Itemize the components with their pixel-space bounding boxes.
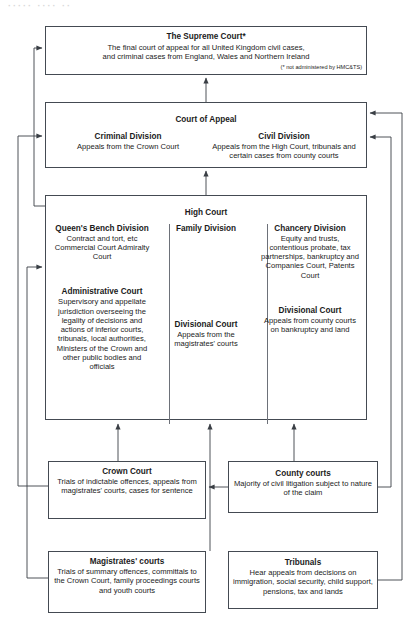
chancery-division-column[interactable]: Chancery Division Equity and trusts, con… xyxy=(258,224,362,424)
court-of-appeal-box[interactable]: Court of Appeal Criminal Division Appeal… xyxy=(45,102,367,168)
court-structure-diagram: ····· ···· ·· xyxy=(0,0,410,640)
supreme-court-line-1: The final court of appeal for all United… xyxy=(50,43,362,52)
divisional-court-chancery-cell[interactable]: Divisional Court Appeals from county cou… xyxy=(261,306,359,335)
divisional-court-chancery-body: Appeals from county courts on bankruptcy… xyxy=(261,316,359,335)
tribunals-box[interactable]: Tribunals Hear appeals from decisions on… xyxy=(228,551,378,609)
family-division-spacer xyxy=(157,236,255,320)
crown-court-box[interactable]: Crown Court Trials of indictable offence… xyxy=(48,461,206,519)
family-division-column[interactable]: Family Division Divisional Court Appeals… xyxy=(154,224,258,424)
administrative-court-cell[interactable]: Administrative Court Supervisory and app… xyxy=(53,287,151,371)
supreme-court-title: The Supreme Court* xyxy=(50,32,362,42)
crown-court-body: Trials of indictable offences, appeals f… xyxy=(53,477,201,496)
administrative-court-title: Administrative Court xyxy=(53,287,151,297)
high-court-title: High Court xyxy=(185,208,227,217)
administrative-court-body: Supervisory and appellate jurisdiction o… xyxy=(53,297,151,371)
county-courts-box[interactable]: County courts Majority of civil litigati… xyxy=(228,461,378,513)
high-court-box[interactable]: High Court Queen's Bench Division Contra… xyxy=(45,195,367,420)
chancery-division-spacer xyxy=(261,282,359,306)
chancery-division-body: Equity and trusts, contentious probate, … xyxy=(261,234,359,280)
county-courts-body: Majority of civil litigation subject to … xyxy=(233,479,373,498)
chancery-division-title: Chancery Division xyxy=(261,224,359,234)
queens-bench-division-title: Queen's Bench Division xyxy=(53,224,151,234)
arrow-county-to-coa xyxy=(370,137,391,487)
tribunals-title: Tribunals xyxy=(233,558,373,568)
family-division-title: Family Division xyxy=(157,224,255,234)
chancery-division-cell[interactable]: Chancery Division Equity and trusts, con… xyxy=(261,224,359,280)
queens-bench-division-cell[interactable]: Queen's Bench Division Contract and tort… xyxy=(53,224,151,262)
supreme-court-footnote: (* not administered by HMC&TS) xyxy=(50,64,362,71)
arrow-crown-to-coa xyxy=(18,136,48,486)
divisional-court-family-body: Appeals from the magistrates' courts xyxy=(157,330,255,349)
crown-court-title: Crown Court xyxy=(53,467,201,477)
criminal-division-title: Criminal Division xyxy=(54,132,202,142)
arrow-highcourt-to-supreme xyxy=(34,48,45,206)
criminal-division-body: Appeals from the Crown Court xyxy=(54,142,202,151)
magistrates-courts-title: Magistrates' courts xyxy=(53,557,201,567)
county-courts-title: County courts xyxy=(233,469,373,479)
tribunals-body: Hear appeals from decisions on immigrati… xyxy=(233,568,373,596)
divisional-court-family-cell[interactable]: Divisional Court Appeals from the magist… xyxy=(157,320,255,349)
magistrates-courts-body: Trials of summary offences, committals t… xyxy=(53,567,201,595)
queens-bench-spacer xyxy=(53,263,151,287)
queens-bench-column[interactable]: Queen's Bench Division Contract and tort… xyxy=(50,224,154,424)
divisional-court-chancery-title: Divisional Court xyxy=(261,306,359,316)
divisional-court-family-title: Divisional Court xyxy=(157,320,255,330)
queens-bench-division-body: Contract and tort, etc Commercial Court … xyxy=(53,234,151,262)
supreme-court-line-2: and criminal cases from England, Wales a… xyxy=(50,52,362,61)
criminal-division-cell[interactable]: Criminal Division Appeals from the Crown… xyxy=(50,132,206,161)
supreme-court-box[interactable]: The Supreme Court* The final court of ap… xyxy=(45,26,367,75)
civil-division-title: Civil Division xyxy=(210,132,358,142)
court-of-appeal-title: Court of Appeal xyxy=(175,115,236,124)
family-division-cell[interactable]: Family Division xyxy=(157,224,255,234)
civil-division-cell[interactable]: Civil Division Appeals from the High Cou… xyxy=(206,132,362,161)
magistrates-courts-box[interactable]: Magistrates' courts Trials of summary of… xyxy=(48,551,206,613)
civil-division-body: Appeals from the High Court, tribunals a… xyxy=(210,142,358,161)
